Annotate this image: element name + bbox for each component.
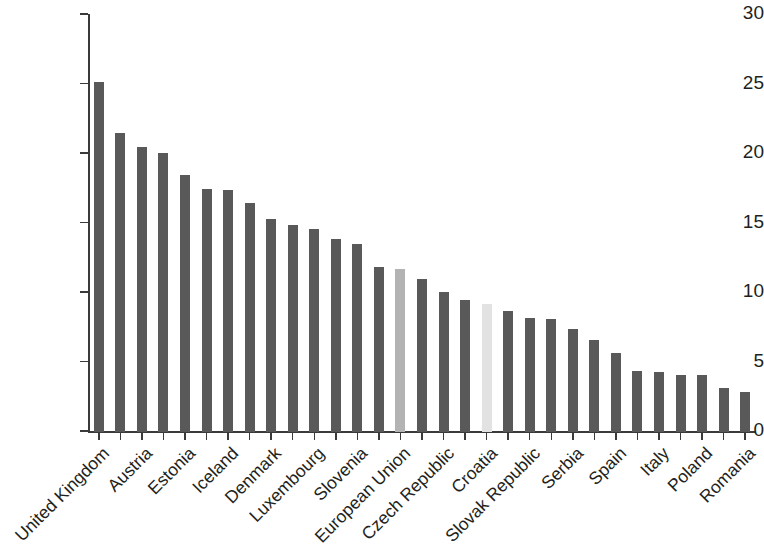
bar (697, 375, 707, 432)
y-tick-mark (80, 291, 88, 293)
bar (503, 311, 513, 432)
bar (180, 175, 190, 432)
y-tick-mark (80, 13, 88, 15)
bar (288, 225, 298, 432)
bar (223, 190, 233, 432)
y-tick-mark (80, 222, 88, 224)
y-tick-mark (80, 361, 88, 363)
y-tick-mark (80, 152, 88, 154)
bar (266, 219, 276, 432)
bar (202, 189, 212, 432)
bar (115, 133, 125, 432)
bar (546, 319, 556, 432)
bar (94, 82, 104, 432)
bar (137, 147, 147, 432)
x-axis-labels: United KingdomAustriaEstoniaIcelandDenma… (0, 431, 764, 554)
y-tick-mark (80, 83, 88, 85)
bar-chart: 051015202530 United KingdomAustriaEstoni… (0, 0, 764, 554)
bar (245, 203, 255, 432)
bar (460, 300, 470, 432)
